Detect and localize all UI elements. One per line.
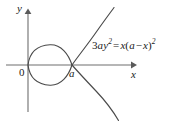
y-axis-arrowhead: [25, 9, 32, 15]
origin-label: 0: [19, 67, 25, 78]
equation-rhs-a: a: [129, 39, 135, 51]
math-figure-cubic-curve: y x 0 a 3ay2=x(a−x)2: [0, 0, 173, 127]
curve-equation-label: 3ay2=x(a−x)2: [92, 38, 156, 51]
x-axis-label: x: [131, 69, 136, 80]
plot-canvas: [0, 0, 173, 127]
node-point-label-a: a: [69, 68, 75, 79]
curve-branch-lower-right: [72, 65, 119, 121]
equation-rhs-exponent: 2: [152, 37, 156, 46]
equation-minus-sign: −: [135, 39, 143, 51]
y-axis-label: y: [17, 3, 22, 14]
